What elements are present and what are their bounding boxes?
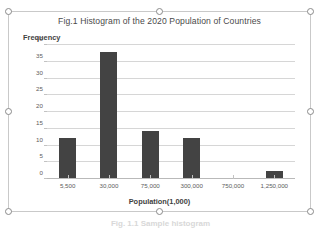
y-tick-label: 40	[36, 35, 43, 42]
y-tick-label: 25	[36, 85, 43, 92]
x-tick-label: 750,000	[212, 182, 253, 189]
chart-object[interactable]: Fig.1 Histogram of the 2020 Population o…	[8, 11, 311, 212]
x-tick-mark	[274, 175, 275, 179]
page-caption-clipped: Fig. 1.1 Sample histogram	[0, 219, 321, 228]
plot-area: 0510152025303540	[47, 45, 295, 179]
x-tick-slot: 750,000	[212, 179, 253, 189]
x-tick-mark	[68, 175, 69, 179]
resize-handle-bottom-right[interactable]	[307, 208, 314, 215]
y-tick-label: 0	[40, 169, 43, 176]
x-axis-ticks: 5,50030,00075,000300,000750,0001,250,000	[47, 179, 295, 189]
x-tick-slot: 5,500	[47, 179, 88, 189]
x-tick-slot: 30,000	[88, 179, 129, 189]
x-tick-label: 5,500	[47, 182, 88, 189]
y-tick-label: 15	[36, 118, 43, 125]
x-tick-slot: 300,000	[171, 179, 212, 189]
bar[interactable]	[100, 52, 117, 178]
bar[interactable]	[142, 131, 159, 178]
bar-slot	[47, 45, 88, 178]
resize-handle-top-left[interactable]	[5, 8, 12, 15]
y-tick-label: 5	[40, 152, 43, 159]
x-tick-label: 300,000	[171, 182, 212, 189]
resize-handle-bottom-left[interactable]	[5, 208, 12, 215]
x-tick-label: 1,250,000	[254, 182, 295, 189]
x-axis-title: Population(1,000)	[9, 197, 310, 206]
bar[interactable]	[59, 138, 76, 178]
x-tick-label: 75,000	[130, 182, 171, 189]
x-tick-slot: 1,250,000	[254, 179, 295, 189]
resize-handle-top-center[interactable]	[156, 8, 163, 15]
bar[interactable]	[183, 138, 200, 178]
resize-handle-bottom-center[interactable]	[156, 208, 163, 215]
y-tick-label: 35	[36, 51, 43, 58]
resize-handle-top-right[interactable]	[307, 8, 314, 15]
x-tick-mark	[150, 175, 151, 179]
x-tick-mark	[109, 175, 110, 179]
x-tick-mark	[233, 175, 234, 179]
bar-series	[47, 45, 295, 178]
resize-handle-middle-right[interactable]	[307, 108, 314, 115]
chart-title: Fig.1 Histogram of the 2020 Population o…	[9, 16, 310, 26]
y-tick-label: 10	[36, 135, 43, 142]
bar-slot	[171, 45, 212, 178]
x-tick-label: 30,000	[88, 182, 129, 189]
resize-handle-middle-left[interactable]	[5, 108, 12, 115]
bar-slot	[254, 45, 295, 178]
bar-slot	[88, 45, 129, 178]
x-tick-slot: 75,000	[130, 179, 171, 189]
bar-slot	[130, 45, 171, 178]
x-tick-mark	[192, 175, 193, 179]
bar-slot	[212, 45, 253, 178]
y-tick-label: 20	[36, 102, 43, 109]
y-tick-label: 30	[36, 68, 43, 75]
